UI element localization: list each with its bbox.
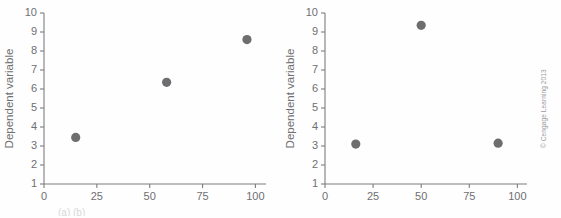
y-tick-label-8: 8 <box>312 44 318 56</box>
y-tick-label-3: 3 <box>31 139 37 151</box>
x-tick-label-25: 25 <box>367 190 379 202</box>
y-tick-label-6: 6 <box>31 82 37 94</box>
y-tick-label-2: 2 <box>312 158 318 170</box>
data-point-0 <box>71 133 80 142</box>
data-point-1 <box>162 78 171 87</box>
x-tick-label-75: 75 <box>463 190 475 202</box>
chart-panel-left: 123456789100255075100Dependent variable <box>0 0 280 218</box>
scatter-chart-left: 123456789100255075100Dependent variable <box>0 0 280 218</box>
y-tick-label-2: 2 <box>31 158 37 170</box>
y-tick-label-4: 4 <box>312 120 318 132</box>
x-tick-label-75: 75 <box>196 190 208 202</box>
y-tick-label-10: 10 <box>25 6 37 18</box>
y-tick-label-3: 3 <box>312 139 318 151</box>
y-tick-label-1: 1 <box>31 177 37 189</box>
caption-fragment: (a) (b) <box>58 207 85 216</box>
y-tick-label-7: 7 <box>31 63 37 75</box>
x-tick-label-0: 0 <box>322 190 328 202</box>
data-point-2 <box>242 35 251 44</box>
y-tick-label-1: 1 <box>312 177 318 189</box>
y-tick-label-8: 8 <box>31 44 37 56</box>
x-tick-label-50: 50 <box>144 190 156 202</box>
x-tick-label-25: 25 <box>91 190 103 202</box>
y-tick-label-9: 9 <box>31 25 37 37</box>
x-tick-label-0: 0 <box>41 190 47 202</box>
y-tick-label-7: 7 <box>312 63 318 75</box>
copyright-notice: © Cengage Learning 2013 <box>540 78 547 148</box>
y-tick-label-10: 10 <box>306 6 318 18</box>
x-tick-label-100: 100 <box>508 190 526 202</box>
scatter-chart-right: 123456789100255075100Dependent variable <box>281 0 541 218</box>
scatter-plot-figure: 123456789100255075100Dependent variable … <box>0 0 561 218</box>
y-tick-label-9: 9 <box>312 25 318 37</box>
y-axis-title: Dependent variable <box>284 49 296 149</box>
y-tick-label-5: 5 <box>31 101 37 113</box>
y-tick-label-5: 5 <box>312 101 318 113</box>
chart-panel-right: 123456789100255075100Dependent variable <box>281 0 541 218</box>
y-tick-label-6: 6 <box>312 82 318 94</box>
data-point-1 <box>417 21 426 30</box>
data-point-2 <box>494 139 503 148</box>
data-point-0 <box>351 140 360 149</box>
y-axis-title: Dependent variable <box>3 49 15 149</box>
x-tick-label-100: 100 <box>246 190 264 202</box>
y-tick-label-4: 4 <box>31 120 37 132</box>
x-tick-label-50: 50 <box>415 190 427 202</box>
